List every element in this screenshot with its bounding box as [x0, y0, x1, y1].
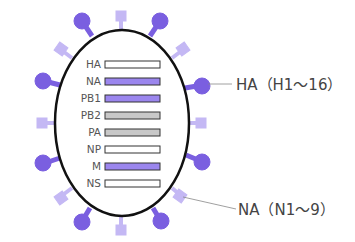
segment-label: PB2 [81, 109, 101, 121]
segment-bar [105, 112, 160, 119]
influenza-virus-diagram: HA NA PB1 PB2 PA NP M NS [0, 0, 355, 242]
segment-bar [105, 95, 160, 102]
ha-callout-label: HA（H1～16） [236, 76, 342, 94]
ha-spike-icon [186, 154, 210, 170]
na-spike-icon [37, 118, 55, 128]
segment-bar [105, 163, 160, 170]
ha-spike-icon [35, 73, 60, 89]
na-spike-icon [54, 42, 72, 58]
segment-bar [105, 146, 160, 153]
segment-label: PA [88, 126, 102, 138]
na-leader-line [183, 197, 236, 209]
ha-spike-icon [74, 13, 92, 36]
na-spike-icon [172, 42, 190, 58]
ha-spike-icon [35, 155, 60, 171]
segment-bar [105, 180, 160, 187]
segment-bar [105, 129, 160, 136]
segment-label: PB1 [81, 92, 101, 104]
ha-spike-icon [153, 208, 169, 229]
na-spike-icon [116, 216, 126, 235]
ha-spike-icon [74, 208, 90, 230]
virus-envelope [55, 30, 189, 216]
segment-label: HA [86, 58, 102, 70]
segment-label: NP [87, 143, 101, 155]
na-callout: NA（N1～9） [183, 197, 335, 219]
segment-label: NS [86, 177, 101, 189]
segment-label: M [92, 160, 101, 172]
ha-spike-icon [150, 13, 168, 36]
segment-label: NA [86, 75, 102, 87]
ha-spike-icon [185, 78, 210, 94]
na-spike-icon [172, 188, 187, 203]
na-spike-icon [116, 11, 126, 30]
ha-callout: HA（H1～16） [208, 76, 342, 94]
segment-bar [105, 78, 160, 85]
segment-bar [105, 61, 160, 68]
na-callout-label: NA（N1～9） [238, 201, 335, 219]
na-spike-icon [54, 188, 72, 205]
na-spike-icon [188, 118, 206, 128]
